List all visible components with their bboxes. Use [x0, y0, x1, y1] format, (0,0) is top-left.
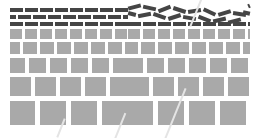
dark-bar: [128, 22, 141, 26]
gray-block-course-1: [128, 29, 250, 39]
dark-bar: [78, 15, 91, 19]
gray-block: [115, 29, 127, 39]
dark-bar: [108, 15, 121, 19]
tilted-bar: [158, 5, 172, 14]
dark-bar: [188, 22, 201, 26]
dark-bar: [25, 22, 38, 26]
dark-bar-course-3: [10, 22, 128, 26]
gray-block: [35, 77, 56, 96]
gray-block-course-3: [128, 58, 250, 73]
dark-bar: [10, 8, 23, 12]
tilted-bar: [128, 11, 137, 17]
dark-bar: [10, 22, 23, 26]
gray-block: [128, 77, 149, 96]
gray-block: [10, 101, 35, 125]
dark-bar: [70, 22, 83, 26]
gray-block: [85, 77, 106, 96]
gray-block: [70, 29, 82, 39]
tilted-bar: [243, 10, 251, 15]
ordered-layered-block-wall-panel: [10, 0, 128, 138]
gray-block: [10, 58, 25, 73]
gray-block: [74, 42, 88, 54]
gray-block: [23, 42, 37, 54]
dark-bar: [203, 22, 216, 26]
gray-block: [40, 42, 54, 54]
dark-bar: [115, 8, 128, 12]
gray-block: [147, 58, 164, 73]
dark-bar: [40, 8, 53, 12]
gray-block: [128, 29, 140, 39]
gray-block: [100, 29, 112, 39]
gray-block: [173, 29, 185, 39]
gray-block: [113, 58, 128, 73]
tilted-bar-course-2: [128, 15, 250, 19]
tilted-bar: [247, 4, 251, 8]
tilted-bar: [128, 3, 142, 10]
gray-block: [92, 58, 109, 73]
gray-block: [203, 77, 224, 96]
dark-bar: [10, 15, 16, 19]
gray-block: [153, 77, 174, 96]
gray-block: [143, 29, 155, 39]
dark-bar-course-3: [128, 22, 250, 26]
dark-bar: [233, 22, 246, 26]
tilted-bar: [143, 5, 157, 12]
gray-block: [226, 42, 240, 54]
gray-block: [210, 58, 227, 73]
dark-bar: [218, 22, 231, 26]
gray-block-course-2: [128, 42, 250, 54]
dark-bar: [63, 15, 76, 19]
gray-block: [218, 29, 230, 39]
dark-bar: [115, 22, 128, 26]
gray-block: [248, 29, 250, 39]
tilted-bar: [168, 13, 182, 21]
gray-block: [110, 77, 128, 96]
gray-block: [10, 42, 20, 54]
dark-bar: [48, 15, 61, 19]
dark-bar: [33, 15, 46, 19]
gray-block: [29, 58, 46, 73]
dark-bar: [40, 22, 53, 26]
figure-canvas: [0, 0, 254, 138]
gray-block-course-2: [10, 42, 128, 54]
gray-block-course-5: [10, 101, 128, 125]
gray-block: [108, 42, 122, 54]
gray-block: [158, 101, 184, 125]
gray-block: [158, 42, 172, 54]
gray-block: [57, 42, 71, 54]
gray-block-course-1: [10, 29, 128, 39]
dark-bar: [70, 8, 83, 12]
dark-bar: [85, 22, 98, 26]
gray-block: [233, 29, 245, 39]
tilted-bar: [138, 12, 152, 18]
gray-block: [71, 58, 88, 73]
dark-bar-course-1: [10, 8, 128, 12]
dark-bar: [25, 8, 38, 12]
disordered-layered-block-wall-panel: [128, 0, 250, 138]
dark-bar: [143, 22, 156, 26]
gray-block: [189, 58, 206, 73]
gray-block: [55, 29, 67, 39]
tilted-bar: [183, 15, 196, 21]
dark-bar: [173, 22, 186, 26]
gray-block-course-3: [10, 58, 128, 73]
gray-block: [40, 29, 52, 39]
dark-bar: [18, 15, 31, 19]
gray-block: [189, 101, 215, 125]
gray-block: [175, 42, 189, 54]
gray-block: [231, 58, 248, 73]
gray-block: [158, 29, 170, 39]
dark-bar: [158, 22, 171, 26]
gray-block: [60, 77, 81, 96]
gray-block-course-4: [10, 77, 128, 96]
gray-block: [192, 42, 206, 54]
gray-block: [203, 29, 215, 39]
gray-block: [228, 77, 249, 96]
dark-bar: [85, 8, 98, 12]
gray-block: [128, 58, 143, 73]
dark-bar: [100, 22, 113, 26]
gray-block: [209, 42, 223, 54]
gray-block: [102, 101, 128, 125]
gray-block: [220, 101, 246, 125]
gray-block: [40, 101, 66, 125]
